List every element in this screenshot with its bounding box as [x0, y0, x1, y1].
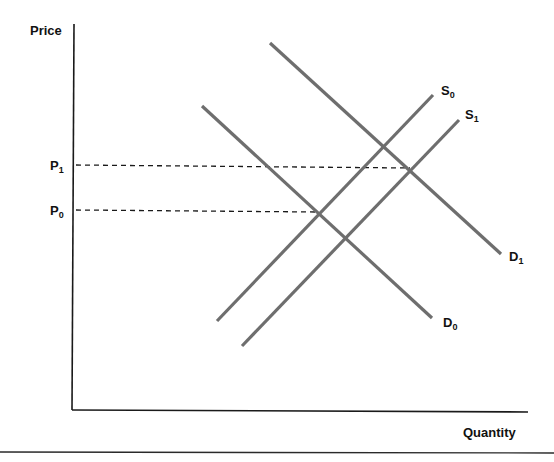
p1-label: P1	[50, 158, 64, 175]
bottom-rule	[0, 452, 554, 453]
x-axis-label: Quantity	[463, 425, 516, 440]
s1-label: S1	[465, 107, 479, 124]
p0-guide-line	[76, 210, 318, 212]
d1-label: D1	[509, 249, 523, 266]
p1-guide-line	[76, 165, 410, 168]
y-axis	[72, 24, 74, 410]
y-axis-label: Price	[30, 23, 62, 38]
supply-demand-diagram: Price Quantity P1 P0 S0 S1 D0 D1	[0, 0, 554, 462]
s0-label: S0	[441, 83, 455, 100]
x-axis	[72, 410, 528, 412]
d0-label: D0	[443, 315, 457, 332]
demand-curve-d1	[270, 43, 501, 254]
demand-curve-d0	[202, 106, 432, 318]
p0-label: P0	[50, 203, 64, 220]
